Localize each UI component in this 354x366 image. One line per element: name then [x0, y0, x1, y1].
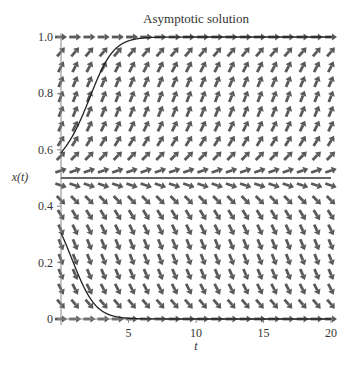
y-tick-label: 0 — [47, 312, 53, 326]
y-tick-label: 0.2 — [38, 256, 53, 270]
y-tick-label: 0.8 — [38, 86, 53, 100]
y-axis-label: x(t) — [11, 170, 29, 184]
direction-field-chart: Asymptotic solution 510152000.20.40.60.8… — [0, 0, 354, 366]
y-tick-label: 1.0 — [38, 30, 53, 44]
chart-title: Asymptotic solution — [143, 11, 249, 26]
x-tick-label: 10 — [190, 326, 202, 340]
x-tick-label: 5 — [126, 326, 132, 340]
x-axis-label: t — [194, 339, 198, 353]
y-tick-label: 0.6 — [38, 143, 53, 157]
x-tick-label: 20 — [325, 326, 337, 340]
y-tick-label: 0.4 — [38, 199, 53, 213]
x-tick-label: 15 — [258, 326, 270, 340]
